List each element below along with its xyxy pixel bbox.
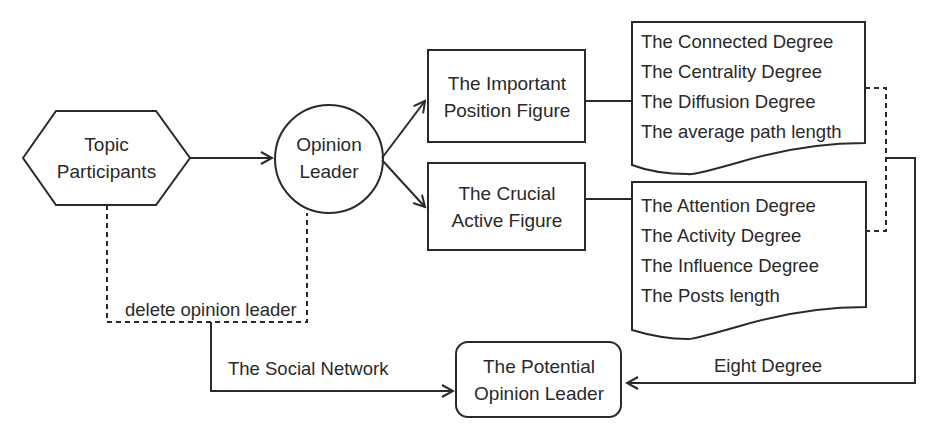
arrow-leader-to-active bbox=[382, 160, 425, 207]
topic-participants-node: Topic Participants bbox=[40, 125, 173, 191]
important-position-node: The Important Position Figure bbox=[429, 60, 585, 134]
potential-leader-line1: The Potential bbox=[483, 353, 595, 380]
important-position-line2: Position Figure bbox=[444, 97, 571, 124]
dashed-bracket-documents bbox=[865, 88, 886, 231]
crucial-active-line2: Active Figure bbox=[452, 207, 563, 234]
arrow-social-network bbox=[211, 322, 453, 391]
metric-posts-length: The Posts length bbox=[641, 281, 819, 311]
metric-activity-degree: The Activity Degree bbox=[641, 221, 819, 251]
topic-participants-line1: Topic bbox=[84, 131, 128, 158]
opinion-leader-line1: Opinion bbox=[296, 131, 362, 158]
metric-attention-degree: The Attention Degree bbox=[641, 191, 819, 221]
eight-degree-label: Eight Degree bbox=[714, 355, 822, 377]
topic-participants-line2: Participants bbox=[57, 158, 156, 185]
metric-influence-degree: The Influence Degree bbox=[641, 251, 819, 281]
social-network-label: The Social Network bbox=[228, 358, 388, 380]
activity-metrics-list: The Attention Degree The Activity Degree… bbox=[641, 191, 819, 311]
opinion-leader-node: Opinion Leader bbox=[282, 125, 376, 191]
important-position-line1: The Important bbox=[448, 70, 566, 97]
opinion-leader-line2: Leader bbox=[299, 158, 358, 185]
delete-opinion-leader-label: delete opinion leader bbox=[125, 299, 297, 321]
metric-connected-degree: The Connected Degree bbox=[641, 27, 842, 57]
metric-average-path-length: The average path length bbox=[641, 117, 842, 147]
crucial-active-line1: The Crucial bbox=[458, 180, 555, 207]
metric-centrality-degree: The Centrality Degree bbox=[641, 57, 842, 87]
position-metrics-list: The Connected Degree The Centrality Degr… bbox=[641, 27, 842, 147]
metric-diffusion-degree: The Diffusion Degree bbox=[641, 87, 842, 117]
crucial-active-node: The Crucial Active Figure bbox=[429, 170, 585, 244]
arrow-leader-to-position bbox=[382, 101, 425, 158]
potential-leader-node: The Potential Opinion Leader bbox=[457, 345, 621, 415]
potential-leader-line2: Opinion Leader bbox=[474, 380, 604, 407]
